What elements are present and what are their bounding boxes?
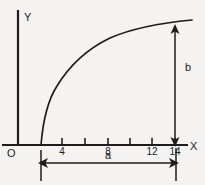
dimension-label-b: b [185, 62, 191, 73]
x-tick-label: 8 [105, 147, 111, 157]
plotted-curve [41, 20, 192, 145]
x-tick-label: 4 [59, 147, 65, 157]
dimension-line-b [171, 24, 180, 147]
x-tick-label: 14 [169, 147, 180, 157]
y-axis-label: Y [24, 12, 31, 23]
x-axis-label: X [190, 141, 197, 152]
x-tick-label: 12 [146, 147, 157, 157]
origin-label: O [7, 148, 16, 159]
figure-canvas: Y X O b a 4 8 12 14 [0, 0, 205, 185]
figure-drawing [0, 0, 205, 185]
